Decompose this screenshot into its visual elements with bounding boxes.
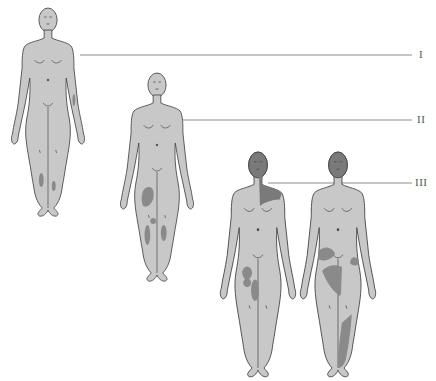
lesion-head bbox=[249, 152, 268, 178]
lesion bbox=[243, 278, 251, 287]
figure-stage-3b bbox=[300, 152, 375, 377]
lesion bbox=[145, 225, 151, 245]
lesion bbox=[39, 173, 44, 187]
stage-label-1: I bbox=[419, 48, 423, 60]
stage-label-3: III bbox=[415, 176, 428, 188]
figure-stage-1 bbox=[11, 8, 84, 216]
lesion-head bbox=[329, 152, 348, 178]
stage-label-2: II bbox=[417, 113, 425, 125]
lesion bbox=[52, 181, 56, 191]
lesion bbox=[242, 266, 252, 279]
lesion bbox=[150, 218, 156, 224]
lesion bbox=[72, 94, 75, 106]
lesion bbox=[251, 279, 259, 301]
lesion bbox=[161, 225, 167, 241]
stage-diagram bbox=[0, 0, 436, 381]
figure-stage-2 bbox=[120, 73, 193, 281]
figure-stage-3a bbox=[220, 152, 295, 377]
